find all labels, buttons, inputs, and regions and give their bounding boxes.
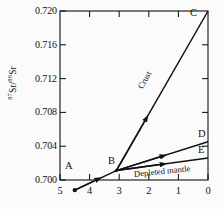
sr-isotope-evolution-chart: 87Sr/86Sr 0.720 0.716 0.712 0.708 0.704 …: [0, 0, 223, 209]
y-tick-marks: [60, 11, 66, 180]
data-point-a: [73, 188, 77, 192]
data-point-b: [115, 169, 118, 172]
y-tick-label-0712: 0.712: [14, 73, 57, 84]
y-tick-label-0720: 0.720: [14, 5, 57, 16]
y-axis-title-sup-86: 86: [6, 75, 13, 82]
data-point-label-e: E: [198, 144, 204, 155]
x-tick-label-0: 0: [200, 185, 216, 196]
y-tick-label-0716: 0.716: [14, 39, 57, 50]
data-point-label-c: C: [190, 7, 197, 18]
x-tick-label-2: 2: [141, 185, 157, 196]
y-axis-title-sup-87: 87: [6, 93, 13, 100]
x-tick-label-5: 5: [52, 185, 68, 196]
x-tick-marks-top: [90, 11, 179, 17]
x-tick-label-1: 1: [170, 185, 186, 196]
plot-frame: [60, 11, 208, 180]
data-point-label-d: D: [198, 128, 206, 139]
x-tick-label-4: 4: [82, 185, 98, 196]
y-tick-label-0704: 0.704: [14, 140, 57, 151]
y-tick-label-0700: 0.700: [14, 174, 57, 185]
y-tick-label-0708: 0.708: [14, 106, 57, 117]
data-point-label-b: B: [108, 155, 115, 166]
x-tick-label-3: 3: [111, 185, 127, 196]
data-point-label-a: A: [65, 160, 73, 171]
